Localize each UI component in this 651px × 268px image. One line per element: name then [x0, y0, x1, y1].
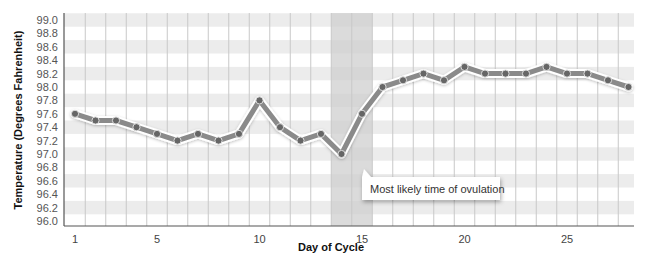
data-point-marker — [440, 77, 447, 84]
data-point-marker — [276, 124, 283, 131]
data-point-marker — [461, 63, 468, 70]
y-tick-label: 99.0 — [37, 14, 58, 26]
x-tick-label: 5 — [154, 233, 160, 245]
data-point-marker — [215, 137, 222, 144]
data-point-marker — [584, 70, 591, 77]
x-axis-title: Day of Cycle — [298, 241, 364, 253]
y-tick-label: 96.4 — [37, 188, 58, 200]
y-tick-label: 97.8 — [37, 94, 58, 106]
data-point-marker — [153, 130, 160, 137]
y-tick-label: 96.8 — [37, 161, 58, 173]
x-tick-label: 20 — [458, 233, 470, 245]
y-axis-tick-labels: 99.098.898.698.498.298.097.897.697.497.2… — [37, 14, 58, 227]
y-tick-label: 97.0 — [37, 148, 58, 160]
y-axis-title: Temperature (Degrees Fahrenheit) — [12, 30, 24, 209]
y-tick-label: 97.6 — [37, 108, 58, 120]
y-tick-label: 98.0 — [37, 81, 58, 93]
data-point-marker — [522, 70, 529, 77]
data-point-marker — [194, 130, 201, 137]
data-point-marker — [543, 63, 550, 70]
data-point-marker — [399, 77, 406, 84]
data-point-marker — [625, 83, 632, 90]
x-tick-label: 25 — [561, 233, 573, 245]
x-tick-label: 10 — [253, 233, 265, 245]
annotation-text: Most likely time of ovulation — [370, 183, 505, 195]
data-point-marker — [563, 70, 570, 77]
data-point-marker — [71, 110, 78, 117]
data-point-marker — [379, 83, 386, 90]
data-point-marker — [174, 137, 181, 144]
y-tick-label: 97.4 — [37, 121, 58, 133]
y-tick-label: 98.4 — [37, 54, 58, 66]
data-point-marker — [604, 77, 611, 84]
y-tick-label: 98.2 — [37, 68, 58, 80]
y-tick-label: 98.6 — [37, 41, 58, 53]
data-point-marker — [481, 70, 488, 77]
data-point-marker — [338, 150, 345, 157]
data-point-marker — [502, 70, 509, 77]
data-point-marker — [92, 117, 99, 124]
bbt-chart: 99.098.898.698.498.298.097.897.697.497.2… — [0, 0, 651, 268]
data-point-marker — [235, 130, 242, 137]
y-tick-label: 98.8 — [37, 27, 58, 39]
x-tick-label: 1 — [72, 233, 78, 245]
data-point-marker — [297, 137, 304, 144]
y-tick-label: 96.2 — [37, 202, 58, 214]
data-point-marker — [256, 97, 263, 104]
data-point-marker — [317, 130, 324, 137]
data-point-marker — [420, 70, 427, 77]
y-tick-label: 96.0 — [37, 215, 58, 227]
data-point-marker — [358, 110, 365, 117]
y-tick-label: 96.6 — [37, 175, 58, 187]
data-point-marker — [133, 124, 140, 131]
y-tick-label: 97.2 — [37, 135, 58, 147]
data-point-marker — [112, 117, 119, 124]
